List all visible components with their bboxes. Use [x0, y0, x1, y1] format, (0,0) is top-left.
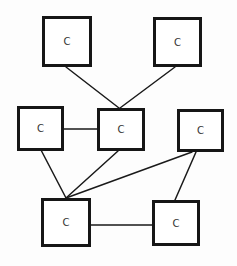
diagram-canvas: CCCCCCC — [0, 0, 237, 266]
node-n1: C — [42, 16, 92, 67]
edge-n5-n7 — [175, 152, 196, 200]
edge-n3-n6 — [41, 150, 66, 198]
node-n6: C — [41, 198, 91, 247]
node-label: C — [174, 37, 181, 48]
node-n5: C — [177, 109, 224, 152]
node-label: C — [118, 124, 125, 135]
node-label: C — [63, 217, 70, 228]
node-n3: C — [17, 106, 64, 151]
node-label: C — [64, 36, 71, 47]
node-label: C — [37, 123, 44, 134]
edge-n5-n6 — [66, 152, 192, 198]
edge-n4-n6 — [66, 151, 118, 198]
node-n7: C — [152, 200, 200, 246]
node-n4: C — [97, 108, 145, 151]
edge-n1-n4 — [66, 67, 119, 108]
node-label: C — [197, 125, 204, 136]
edge-n2-n4 — [120, 67, 175, 108]
node-n2: C — [153, 17, 202, 67]
node-label: C — [173, 218, 180, 229]
